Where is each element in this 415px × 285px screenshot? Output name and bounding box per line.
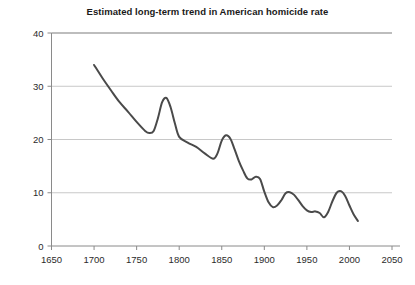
x-axis-label-2000: 2000: [339, 254, 360, 265]
x-axis-label-2050: 2050: [381, 254, 402, 265]
x-axis-label-1700: 1700: [83, 254, 104, 265]
y-axis-label-40: 40: [33, 28, 44, 39]
tick-labels-group: 0102030401650170017501800185019001950200…: [33, 28, 403, 266]
y-axis-label-0: 0: [38, 241, 43, 252]
line-chart-plot: 0102030401650170017501800185019001950200…: [0, 0, 415, 285]
chart-container: Estimated long-term trend in American ho…: [0, 0, 415, 285]
gridlines-group: [52, 33, 393, 193]
x-axis-label-1850: 1850: [211, 254, 232, 265]
x-axis-label-1800: 1800: [169, 254, 190, 265]
x-axis-label-1750: 1750: [126, 254, 147, 265]
x-axis-label-1950: 1950: [296, 254, 317, 265]
x-axis-label-1900: 1900: [254, 254, 275, 265]
series-line-0: [94, 65, 358, 221]
x-axis-label-1650: 1650: [41, 254, 62, 265]
y-axis-label-10: 10: [33, 187, 44, 198]
y-axis-label-20: 20: [33, 134, 44, 145]
data-series-group: [94, 65, 358, 221]
tick-marks-group: [48, 33, 393, 250]
y-axis-label-30: 30: [33, 81, 44, 92]
